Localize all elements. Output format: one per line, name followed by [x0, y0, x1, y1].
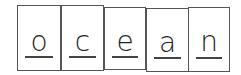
- underline: [196, 57, 222, 59]
- letter-card-n: n: [188, 7, 230, 72]
- letter: c: [62, 28, 103, 56]
- underline: [69, 56, 96, 58]
- letter-card-e: e: [104, 7, 146, 70]
- letter: e: [105, 28, 145, 56]
- letter-card-a: a: [146, 8, 189, 72]
- underline: [112, 56, 138, 58]
- letter: a: [147, 29, 188, 57]
- underline: [25, 56, 53, 58]
- letter: o: [18, 28, 60, 56]
- letter: n: [189, 28, 229, 56]
- letter-card-c: c: [61, 5, 104, 71]
- letter-card-o: o: [17, 5, 61, 71]
- underline: [154, 57, 181, 59]
